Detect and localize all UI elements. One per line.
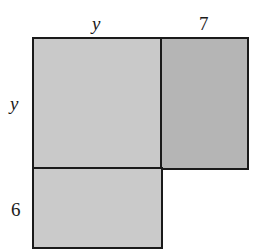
- area-model-diagram: y 7 y 6: [0, 0, 260, 252]
- left-height-label-6: 6: [11, 200, 21, 219]
- rect-7-by-y: [160, 37, 249, 170]
- rect-y-by-6: [32, 167, 163, 249]
- top-width-label-7: 7: [199, 14, 209, 33]
- square-y-by-y: [32, 37, 163, 170]
- top-width-label-y: y: [92, 14, 100, 33]
- left-height-label-y: y: [10, 94, 18, 113]
